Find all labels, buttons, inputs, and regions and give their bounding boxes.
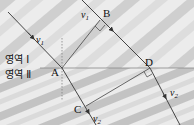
point-D-label: D [145,56,153,68]
point-C-label: C [74,103,81,115]
refraction-diagram: 영역 Ⅰ 영역 Ⅱ A B C D v1 v1 v2 v2 [0,0,194,125]
region-2-label: 영역 Ⅱ [5,69,31,80]
point-B-label: B [103,7,110,19]
point-A-label: A [51,66,59,78]
diagram-svg: 영역 Ⅰ 영역 Ⅱ A B C D v1 v1 v2 v2 [0,0,194,125]
region-1-label: 영역 Ⅰ [5,54,29,65]
